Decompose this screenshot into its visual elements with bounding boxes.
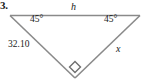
right-angle-marker-icon bbox=[70, 62, 81, 73]
problem-number-label: 3. bbox=[0, 0, 8, 11]
side-label-h: h bbox=[71, 2, 76, 12]
side-label-x: x bbox=[116, 44, 120, 54]
triangle-side-right bbox=[75, 16, 140, 79]
angle-label-right: 45° bbox=[104, 15, 117, 25]
geometry-figure: 3. h 45° 45° 32.10 x bbox=[0, 0, 145, 81]
angle-label-left: 45° bbox=[30, 15, 43, 25]
side-label-left-length: 32.10 bbox=[8, 40, 29, 50]
